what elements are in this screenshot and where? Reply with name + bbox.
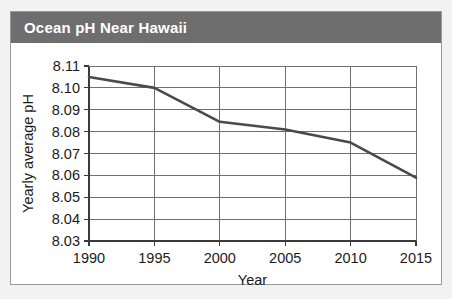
figure-frame: Ocean pH Near Hawaii 8.038.048.058.068.0… bbox=[10, 11, 442, 285]
y-tick-label: 8.04 bbox=[52, 211, 80, 227]
y-tick-label: 8.07 bbox=[52, 146, 80, 162]
x-tick-label: 2015 bbox=[400, 250, 432, 266]
x-tick-label: 1995 bbox=[138, 250, 170, 266]
y-axis-title: Yearly average pH bbox=[20, 94, 36, 213]
plot-region: 8.038.048.058.068.078.088.098.108.111990… bbox=[11, 43, 441, 284]
data-series-line bbox=[89, 77, 416, 178]
x-axis-title: Year bbox=[238, 272, 267, 285]
y-tick-label: 8.03 bbox=[52, 233, 80, 249]
x-tick-label: 2000 bbox=[204, 250, 236, 266]
x-tick-label: 2005 bbox=[269, 250, 301, 266]
y-tick-label: 8.11 bbox=[53, 58, 80, 74]
chart-title: Ocean pH Near Hawaii bbox=[11, 19, 187, 36]
y-tick-label: 8.08 bbox=[52, 124, 80, 140]
x-tick-label: 1990 bbox=[73, 250, 105, 266]
x-tick-label: 2010 bbox=[334, 250, 366, 266]
y-tick-label: 8.06 bbox=[52, 167, 80, 183]
chart-title-bar: Ocean pH Near Hawaii bbox=[11, 12, 441, 43]
y-tick-label: 8.05 bbox=[52, 189, 80, 205]
y-tick-label: 8.09 bbox=[52, 102, 80, 118]
y-tick-label: 8.10 bbox=[52, 80, 80, 96]
line-chart: 8.038.048.058.068.078.088.098.108.111990… bbox=[11, 43, 441, 285]
